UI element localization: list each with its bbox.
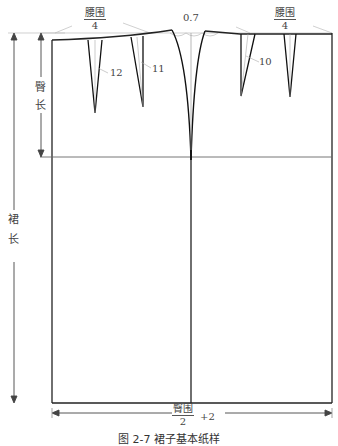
waist-right-denominator: 4 <box>274 20 296 31</box>
dart-length-12: 12 <box>110 68 123 78</box>
dart-length-11: 11 <box>152 64 165 74</box>
hip-width-suffix: +2 <box>200 412 215 422</box>
waist-right-label: 腰围 4 <box>274 8 296 31</box>
side-raise-label: 0.7 <box>183 13 199 23</box>
side-seam <box>172 30 205 160</box>
hip-length-char-1: 臀 <box>35 78 46 94</box>
dimension-arrows <box>11 33 332 418</box>
waist-right-numerator: 腰围 <box>274 8 296 20</box>
hip-length-char-2: 长 <box>35 96 46 112</box>
skirt-length-char-1: 裙 <box>8 210 19 226</box>
hip-width-label: 臀围 2 <box>172 404 194 427</box>
waist-left-label: 腰围 4 <box>84 8 106 31</box>
dart-length-10: 10 <box>259 57 272 67</box>
waist-left-numerator: 腰围 <box>84 8 106 20</box>
waist-left-denominator: 4 <box>84 20 106 31</box>
skirt-length-char-2: 长 <box>8 230 19 246</box>
hip-width-numerator: 臀围 <box>172 404 194 416</box>
figure-caption: 图 2-7 裙子基本纸样 <box>0 430 338 446</box>
hip-width-denominator: 2 <box>172 416 194 427</box>
skirt-pattern-drawing <box>0 0 338 446</box>
